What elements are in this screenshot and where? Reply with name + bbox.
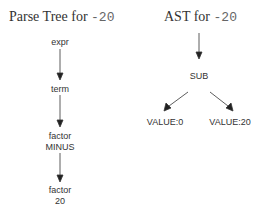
node-sublabel: 20 [49, 196, 72, 207]
node-label: factor [46, 131, 75, 142]
node-sublabel: MINUS [46, 142, 75, 153]
node-label: term [51, 84, 69, 95]
ast-node-value-20: VALUE:20 [209, 117, 250, 128]
parse-node-term: term [51, 84, 69, 95]
ast-node-sub: SUB [190, 71, 209, 82]
parse-node-expr: expr [51, 37, 69, 48]
parse-node-factor-minus: factor MINUS [46, 131, 75, 153]
node-label: expr [51, 37, 69, 48]
node-label: factor [49, 185, 72, 196]
node-label: SUB [190, 71, 209, 82]
tree-edges [0, 0, 253, 213]
parse-node-factor-20: factor 20 [49, 185, 72, 207]
node-label: VALUE:20 [209, 117, 250, 128]
node-label: VALUE:0 [147, 117, 183, 128]
ast-node-value-0: VALUE:0 [147, 117, 183, 128]
